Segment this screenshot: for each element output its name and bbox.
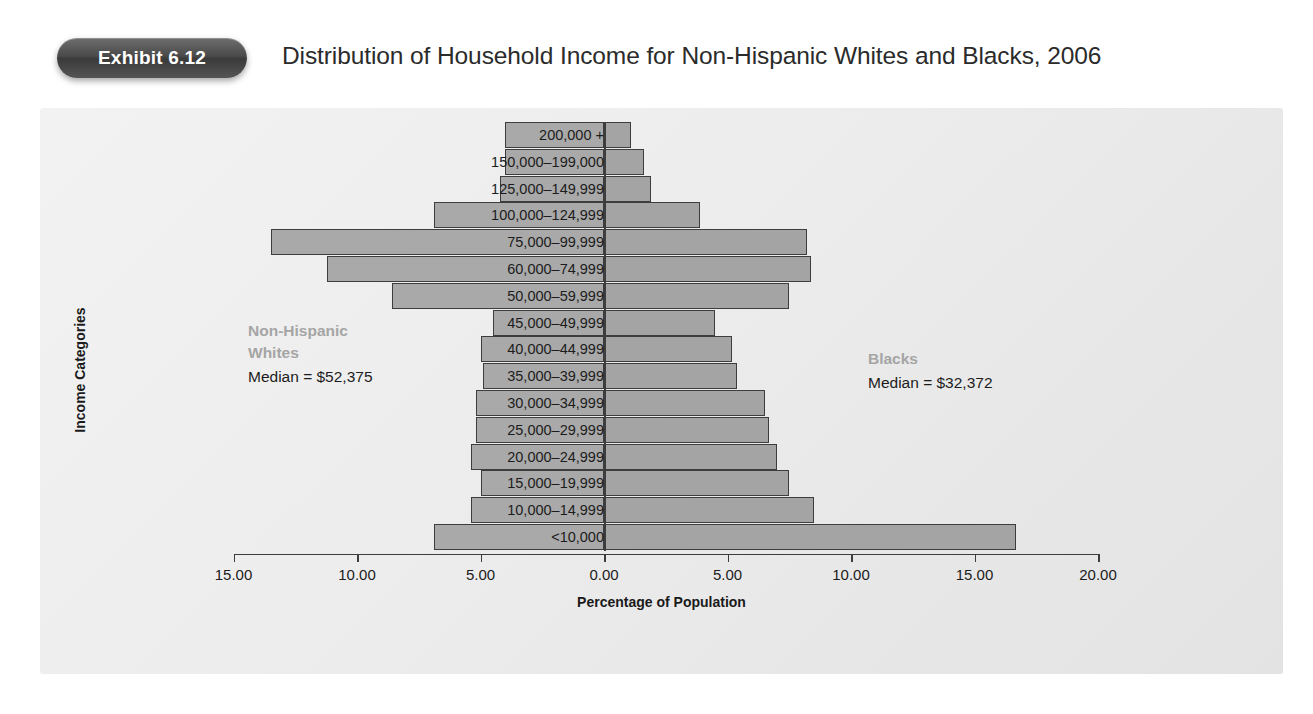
bar-blacks — [604, 336, 732, 362]
exhibit-badge-label: Exhibit 6.12 — [98, 47, 206, 69]
category-label: 45,000–49,999 — [104, 310, 611, 336]
bar-blacks — [604, 390, 765, 416]
bar-blacks — [604, 363, 737, 389]
bar-row: 60,000–74,999 — [40, 256, 1283, 282]
bar-blacks — [604, 229, 807, 255]
bar-blacks — [604, 202, 700, 228]
x-axis-tick-label: 15.00 — [215, 566, 253, 583]
x-axis-tick-label: 0.00 — [589, 566, 618, 583]
x-axis-tick — [604, 554, 606, 562]
bar-row: 50,000–59,999 — [40, 283, 1283, 309]
category-label: 125,000–149,999 — [104, 176, 611, 202]
bar-blacks — [604, 470, 789, 496]
bar-blacks — [604, 444, 777, 470]
chart-header: Exhibit 6.12 Distribution of Household I… — [0, 0, 1313, 108]
page-title: Distribution of Household Income for Non… — [282, 42, 1101, 70]
bar-row: 150,000–199,000 — [40, 149, 1283, 175]
category-label: 60,000–74,999 — [104, 256, 611, 282]
x-axis-tick-label: 10.00 — [338, 566, 376, 583]
category-label: 75,000–99,999 — [104, 229, 611, 255]
bar-blacks — [604, 497, 814, 523]
bar-row: 200,000 + — [40, 122, 1283, 148]
x-axis-tick — [234, 554, 236, 562]
bar-blacks — [604, 176, 651, 202]
annotation-blacks-group: Blacks — [868, 348, 993, 370]
bar-row: 125,000–149,999 — [40, 176, 1283, 202]
category-label: 25,000–29,999 — [104, 417, 611, 443]
category-label: 10,000–14,999 — [104, 497, 611, 523]
category-label: 100,000–124,999 — [104, 202, 611, 228]
bar-blacks — [604, 256, 811, 282]
annotation-blacks-median: Median = $32,372 — [868, 374, 993, 392]
category-label: 35,000–39,999 — [104, 363, 611, 389]
bar-blacks — [604, 310, 715, 336]
bar-blacks — [604, 524, 1016, 550]
bar-row: 30,000–34,999 — [40, 390, 1283, 416]
x-axis-tick — [975, 554, 977, 562]
category-label: <10,000 — [104, 524, 611, 550]
x-axis-tick-label: 20.00 — [1079, 566, 1117, 583]
x-axis-tick-label: 5.00 — [713, 566, 742, 583]
bar-row: 75,000–99,999 — [40, 229, 1283, 255]
x-axis-tick-label: 10.00 — [832, 566, 870, 583]
x-axis-tick — [728, 554, 730, 562]
category-label: 150,000–199,000 — [104, 149, 611, 175]
bar-row: 40,000–44,999 — [40, 336, 1283, 362]
category-label: 20,000–24,999 — [104, 444, 611, 470]
x-axis-tick — [357, 554, 359, 562]
x-axis-tick — [851, 554, 853, 562]
bar-row: 100,000–124,999 — [40, 202, 1283, 228]
category-label: 30,000–34,999 — [104, 390, 611, 416]
plot-area: Income Categories 200,000 +150,000–199,0… — [40, 108, 1283, 674]
category-label: 40,000–44,999 — [104, 336, 611, 362]
bar-blacks — [604, 283, 789, 309]
bar-row: 25,000–29,999 — [40, 417, 1283, 443]
exhibit-badge: Exhibit 6.12 — [57, 38, 247, 78]
bar-row: 10,000–14,999 — [40, 497, 1283, 523]
category-label: 50,000–59,999 — [104, 283, 611, 309]
x-axis-tick-label: 15.00 — [956, 566, 994, 583]
x-axis-tick — [481, 554, 483, 562]
x-axis-line — [234, 554, 1099, 556]
category-label: 15,000–19,999 — [104, 470, 611, 496]
chart-panel: Income Categories 200,000 +150,000–199,0… — [40, 108, 1283, 674]
bar-row: 15,000–19,999 — [40, 470, 1283, 496]
category-label: 200,000 + — [104, 122, 611, 148]
bar-blacks — [604, 417, 769, 443]
bar-row: 20,000–24,999 — [40, 444, 1283, 470]
x-axis-tick-label: 5.00 — [466, 566, 495, 583]
annotation-blacks: Blacks Median = $32,372 — [868, 348, 993, 392]
bar-row: <10,000 — [40, 524, 1283, 550]
bar-row: 45,000–49,999 — [40, 310, 1283, 336]
bar-row: 35,000–39,999 — [40, 363, 1283, 389]
x-axis-title: Percentage of Population — [40, 594, 1283, 610]
x-axis-tick — [1098, 554, 1100, 562]
